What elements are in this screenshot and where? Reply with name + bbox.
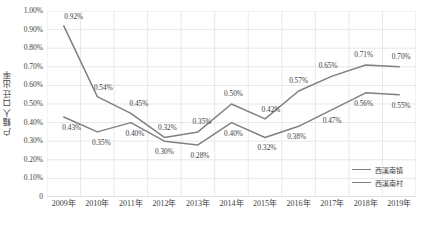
- y-axis-tick: 0.40%: [24, 119, 43, 127]
- data-label: 0.40%: [125, 130, 144, 137]
- data-label: 0.92%: [64, 13, 83, 20]
- y-axis-tick: 0.20%: [24, 156, 43, 164]
- x-axis-tick: 2019年: [387, 200, 411, 208]
- y-axis-tick: 0.10%: [24, 175, 43, 183]
- y-axis-tick: 0: [39, 193, 43, 201]
- data-label: 0.32%: [258, 145, 277, 152]
- x-axis-tick: 2012年: [152, 200, 176, 208]
- data-label: 0.55%: [392, 102, 411, 109]
- y-axis-tick: 1.00%: [24, 7, 43, 15]
- data-label: 0.35%: [92, 139, 111, 146]
- legend-item-label: 西溪南村: [375, 178, 403, 188]
- y-axis-tick: 0.70%: [24, 63, 43, 71]
- x-axis-tick: 2018年: [354, 200, 378, 208]
- line-chart: 户籍人口迁出率 1.00%0.90%0.80%0.70%0.60%0.50%0.…: [0, 0, 425, 234]
- data-label: 0.42%: [262, 106, 281, 113]
- data-label: 0.30%: [155, 149, 174, 156]
- data-label: 0.47%: [323, 117, 342, 124]
- x-axis-tick-labels: 2009年2010年2011年2012年2013年2014年2015年2016年…: [47, 200, 416, 218]
- x-axis-tick: 2009年: [52, 200, 76, 208]
- legend-item[interactable]: 西溪南村: [352, 176, 424, 189]
- legend-line-swatch-icon: [352, 182, 371, 183]
- data-label: 0.32%: [158, 125, 177, 132]
- data-label: 0.54%: [94, 84, 113, 91]
- data-label: 0.45%: [129, 101, 148, 108]
- x-axis-tick: 2017年: [320, 200, 344, 208]
- y-axis-tick-labels: 1.00%0.90%0.80%0.70%0.60%0.50%0.40%0.30%…: [14, 11, 46, 197]
- data-label: 0.65%: [319, 62, 338, 69]
- data-label: 0.38%: [287, 134, 306, 141]
- y-axis-title-text: 户籍人口迁出率: [2, 69, 14, 136]
- x-axis-tick: 2014年: [220, 200, 244, 208]
- legend-item[interactable]: 西溪南镇: [352, 163, 424, 176]
- y-axis-tick: 0.60%: [24, 82, 43, 90]
- data-label: 0.40%: [224, 130, 243, 137]
- data-label: 0.71%: [354, 51, 373, 58]
- x-axis-tick: 2016年: [287, 200, 311, 208]
- y-axis-tick: 0.80%: [24, 44, 43, 52]
- data-label: 0.35%: [193, 118, 212, 125]
- x-axis-tick: 2015年: [253, 200, 277, 208]
- y-axis-tick: 0.50%: [24, 100, 43, 108]
- y-axis-tick: 0.90%: [24, 26, 43, 34]
- data-label: 0.28%: [191, 152, 210, 159]
- legend-item-label: 西溪南镇: [375, 165, 403, 175]
- y-axis-tick: 0.30%: [24, 137, 43, 145]
- data-label: 0.43%: [62, 124, 81, 131]
- data-label: 0.70%: [392, 53, 411, 60]
- x-axis-tick: 2011年: [119, 200, 143, 208]
- x-axis-tick: 2013年: [186, 200, 210, 208]
- data-label: 0.57%: [289, 77, 308, 84]
- chart-legend: 西溪南镇西溪南村: [352, 163, 424, 189]
- x-axis-tick: 2010年: [85, 200, 109, 208]
- legend-line-swatch-icon: [352, 169, 371, 170]
- data-label: 0.50%: [224, 90, 243, 97]
- data-label: 0.56%: [354, 100, 373, 107]
